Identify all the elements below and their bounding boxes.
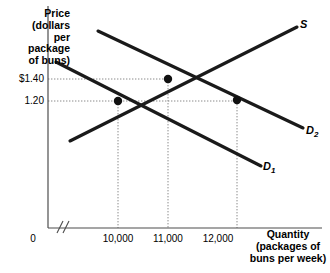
x-axis-title: Quantity (packages of buns per week) <box>248 229 328 264</box>
y-axis-title: Price (dollars per package of buns) <box>4 8 70 67</box>
x-tick-label-origin: 0 <box>23 233 43 244</box>
demand-curve-d2 <box>98 31 303 128</box>
x-axis-break-icon <box>57 221 69 233</box>
point-quantity-demanded-12000 <box>233 96 241 104</box>
axes-lines <box>48 6 322 233</box>
y-axis-title-line-5: of buns) <box>4 55 70 67</box>
x-axis-title-line-3: buns per week) <box>248 253 328 265</box>
demand-d2-subscript: 2 <box>314 130 318 139</box>
demand-curve-d1-label: D1 <box>263 160 275 176</box>
supply-curve-s <box>70 27 297 141</box>
y-tick-label-1-20: 1.20 <box>0 95 44 106</box>
demand-d1-subscript: 1 <box>271 166 275 175</box>
y-axis-title-line-2: (dollars <box>4 20 70 32</box>
point-equilibrium-initial <box>114 97 122 105</box>
x-tick-label-12000: 12,000 <box>192 233 244 244</box>
y-tick-label-1-40: $1.40 <box>0 73 44 84</box>
supply-demand-chart: Price (dollars per package of buns) $1.4… <box>0 0 330 273</box>
supply-curve-label: S <box>300 18 307 30</box>
demand-curve-d2-label: D2 <box>306 124 318 140</box>
x-tick-label-10000: 10,000 <box>92 233 144 244</box>
x-axis-title-line-2: (packages of <box>248 241 328 253</box>
gridlines <box>48 79 237 228</box>
demand-d2-letter: D <box>306 124 314 136</box>
demand-curve-d1 <box>56 62 261 166</box>
demand-d1-letter: D <box>263 160 271 172</box>
x-tick-label-11000: 11,000 <box>142 233 194 244</box>
x-axis-title-line-1: Quantity <box>248 229 328 241</box>
y-axis-title-line-1: Price <box>4 8 70 20</box>
point-equilibrium-new <box>164 75 172 83</box>
